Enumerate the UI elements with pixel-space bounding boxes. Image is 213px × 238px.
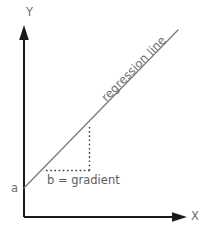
diagram-canvas xyxy=(0,0,213,238)
gradient-label: b = gradient xyxy=(47,175,120,187)
intercept-label: a xyxy=(11,183,18,195)
y-axis-label: Y xyxy=(26,7,33,19)
y-axis-arrowhead xyxy=(19,25,29,40)
x-axis-arrowhead xyxy=(172,212,187,222)
x-axis-label: X xyxy=(191,211,199,223)
regression-diagram: Y X a b = gradient regression line xyxy=(0,0,213,238)
